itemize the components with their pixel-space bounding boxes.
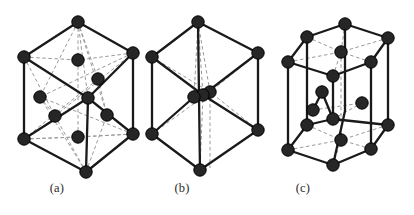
panel-label-a: (a) [27,181,87,196]
atom [365,56,377,68]
atom [316,86,328,98]
atom [335,134,347,146]
caption-strip [0,206,414,215]
atom [339,18,351,30]
atom [282,144,294,156]
atom [301,31,313,43]
panel-label-c: (c) [273,181,333,196]
atom [307,104,319,116]
atom [356,97,368,109]
atom [327,70,339,82]
panel-c-atoms [282,18,394,171]
atom [327,159,339,171]
atom [382,32,394,44]
atom [327,113,339,125]
atom [282,56,294,68]
panel-label-row: (a) (b) (c) [0,181,414,203]
atom [382,119,394,131]
atom [335,46,347,58]
crystal-structure-figure: (a) (b) (c) [0,0,414,215]
atom [301,119,313,131]
atom [365,143,377,155]
panel-label-b: (b) [152,181,212,196]
